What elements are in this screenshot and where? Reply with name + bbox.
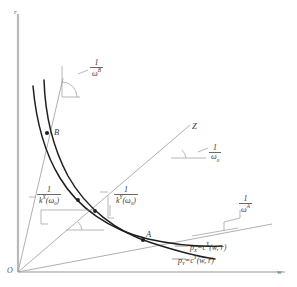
x-axis-label: w (277, 268, 282, 276)
figure-canvas: r w O B A Z 1 ωB 1 ω0 1 ωA 1 kX(ω0) 1 (0, 0, 297, 287)
equation-pY: pY=cY(w, r) (178, 254, 214, 266)
diagram-svg (0, 0, 297, 287)
origin-label: O (7, 266, 13, 275)
label-kX: 1 kX(ω0) (37, 186, 61, 207)
omega-0-denominator: ω0 (209, 153, 221, 163)
label-kY: 1 kY(ω0) (114, 186, 138, 207)
kX-denominator: kX(ω0) (37, 195, 61, 206)
omega-A-denominator: ωA (239, 204, 252, 214)
dot-point-A (141, 238, 145, 242)
label-omega-A: 1 ωA (239, 194, 252, 214)
angle-marker-omega-0 (171, 148, 208, 158)
z-line-label: Z (192, 121, 197, 131)
kY-numerator: 1 (114, 186, 138, 195)
dot-z-lower (76, 198, 80, 202)
kY-denominator: kY(ω0) (114, 195, 138, 206)
ray-omega-B (18, 78, 63, 272)
dot-point-B (45, 131, 49, 135)
point-label-A: A (146, 229, 151, 239)
equation-pX: pX=cX(w, r) (190, 241, 226, 253)
curve-isocost-X (33, 86, 222, 246)
y-axis-label: r (14, 8, 17, 16)
dot-z-upper (93, 209, 97, 213)
point-label-B: B (54, 127, 59, 137)
curve-isocost-Y (44, 80, 215, 259)
angle-marker-omega-B (62, 66, 88, 97)
angle-marker-omega-A (192, 210, 240, 236)
label-omega-0: 1 ω0 (209, 143, 221, 163)
axes-group (18, 14, 285, 272)
omega-B-denominator: ωB (90, 68, 103, 78)
rays-group (18, 78, 272, 272)
kX-numerator: 1 (37, 186, 61, 195)
ray-omega-A (18, 224, 272, 272)
label-omega-B: 1 ωB (90, 58, 103, 78)
